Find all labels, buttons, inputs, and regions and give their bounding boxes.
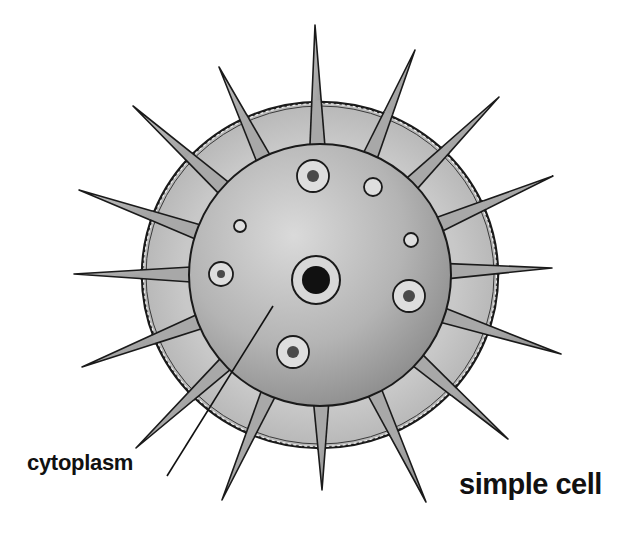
diagram-title: simple cell	[459, 468, 602, 501]
organelle-core	[403, 290, 415, 302]
nucleus-core	[302, 266, 330, 294]
nucleus	[292, 256, 340, 304]
organelle	[404, 233, 418, 247]
organelle	[364, 178, 382, 196]
organelle-core	[307, 170, 319, 182]
organelle-core	[217, 270, 225, 278]
organelle	[234, 220, 246, 232]
organelle-core	[287, 346, 299, 358]
cytoplasm-label: cytoplasm	[27, 450, 133, 476]
